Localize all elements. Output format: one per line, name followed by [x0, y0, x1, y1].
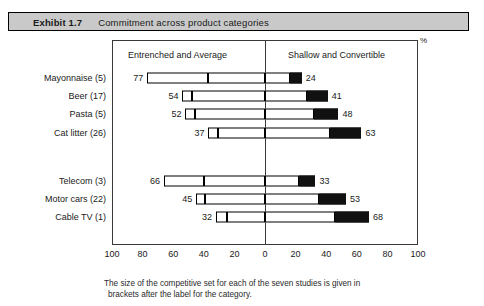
footnote: The size of the competitive set for each… — [104, 278, 434, 300]
bar-segment-average — [192, 91, 265, 102]
bar-row — [0, 91, 484, 102]
bar-segment-convertible — [307, 91, 328, 102]
x-tick-label: 100 — [104, 249, 119, 259]
bar-row — [0, 73, 484, 84]
x-tick-label: 80 — [138, 249, 148, 259]
bar-value-right: 63 — [365, 128, 375, 138]
x-tick-label: 40 — [199, 249, 209, 259]
bar-segment-shallow — [265, 73, 290, 84]
bar-segment-entrenched — [147, 73, 208, 84]
bar-segment-entrenched — [164, 176, 204, 187]
x-tick-label: 100 — [410, 249, 425, 259]
bar-segment-average — [195, 109, 265, 120]
x-tick-label: 60 — [168, 249, 178, 259]
exhibit-title: Commitment across product categories — [98, 16, 269, 27]
category-axis: Mayonnaise (5)Beer (17)Pasta (5)Cat litt… — [0, 0, 112, 306]
bar-segment-convertible — [314, 109, 338, 120]
bar-row — [0, 176, 484, 187]
bar-row — [0, 212, 484, 223]
bar-segment-entrenched — [185, 109, 194, 120]
bar-segment-average — [205, 194, 265, 205]
bar-value-left: 66 — [150, 176, 160, 186]
bar-value-right: 41 — [332, 91, 342, 101]
bar-value-left: 37 — [194, 128, 204, 138]
x-tick-label: 60 — [352, 249, 362, 259]
bar-value-right: 68 — [373, 212, 383, 222]
bar-segment-entrenched — [216, 212, 227, 223]
bar-segment-convertible — [335, 212, 369, 223]
bar-segment-shallow — [265, 91, 307, 102]
bar-segment-convertible — [299, 176, 316, 187]
bar-segment-entrenched — [182, 91, 191, 102]
bar-segment-average — [204, 176, 265, 187]
column-caption-shallow: Shallow and Convertible — [288, 50, 385, 60]
bar-segment-shallow — [265, 212, 335, 223]
bar-segment-entrenched — [196, 194, 205, 205]
bar-row — [0, 128, 484, 139]
bar-value-left: 77 — [133, 73, 143, 83]
bar-segment-average — [208, 73, 265, 84]
bar-segment-shallow — [265, 194, 319, 205]
bar-value-right: 33 — [319, 176, 329, 186]
x-tick-label: 20 — [229, 249, 239, 259]
x-tick-label: 80 — [382, 249, 392, 259]
x-tick-label: 20 — [291, 249, 301, 259]
bar-segment-shallow — [265, 176, 299, 187]
bar-segment-convertible — [290, 73, 302, 84]
bar-segment-average — [227, 212, 265, 223]
bar-segment-shallow — [265, 109, 314, 120]
bar-row — [0, 194, 484, 205]
x-tick-label: 40 — [321, 249, 331, 259]
bar-value-left: 54 — [168, 91, 178, 101]
column-caption-entrenched: Entrenched and Average — [128, 50, 227, 60]
bar-segment-shallow — [265, 128, 330, 139]
bar-segment-entrenched — [208, 128, 217, 139]
bar-value-right: 53 — [350, 194, 360, 204]
bar-value-left: 52 — [171, 109, 181, 119]
footnote-line-1: The size of the competitive set for each… — [104, 278, 434, 289]
bar-value-left: 45 — [182, 194, 192, 204]
bar-value-left: 32 — [202, 212, 212, 222]
bar-value-right: 48 — [342, 109, 352, 119]
bar-segment-convertible — [330, 128, 362, 139]
footnote-line-2: brackets after the label for the categor… — [104, 289, 434, 300]
axis-unit-label: % — [420, 36, 427, 45]
bar-value-right: 24 — [306, 73, 316, 83]
bar-segment-convertible — [319, 194, 346, 205]
x-tick-label: 0 — [262, 249, 267, 259]
bar-segment-average — [218, 128, 265, 139]
bar-row — [0, 109, 484, 120]
